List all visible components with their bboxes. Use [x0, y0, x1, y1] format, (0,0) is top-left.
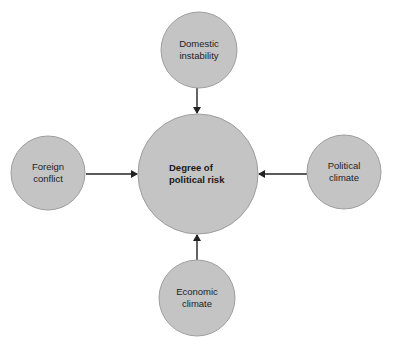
node-label-line: conflict	[33, 173, 63, 184]
node-domestic-instability: Domesticinstability	[161, 12, 237, 88]
node-economic-climate: Economicclimate	[159, 260, 235, 336]
node-label-line: Domestic	[179, 38, 219, 49]
political-risk-diagram: Degree ofpolitical riskDomesticinstabili…	[0, 0, 394, 349]
node-label-line: Foreign	[32, 161, 64, 172]
node-label-line: political risk	[169, 174, 225, 185]
node-label-line: instability	[179, 50, 218, 61]
node-degree-of-political-risk: Degree ofpolitical risk	[138, 114, 258, 234]
node-political-climate: Politicalclimate	[307, 135, 381, 209]
node-label-line: Political	[328, 160, 361, 171]
node-label-line: Degree of	[169, 162, 214, 173]
nodes: Degree ofpolitical riskDomesticinstabili…	[11, 12, 381, 336]
node-label-line: climate	[329, 172, 359, 183]
node-label-line: climate	[182, 298, 212, 309]
node-label-line: Economic	[176, 286, 218, 297]
node-foreign-conflict: Foreignconflict	[11, 136, 85, 210]
